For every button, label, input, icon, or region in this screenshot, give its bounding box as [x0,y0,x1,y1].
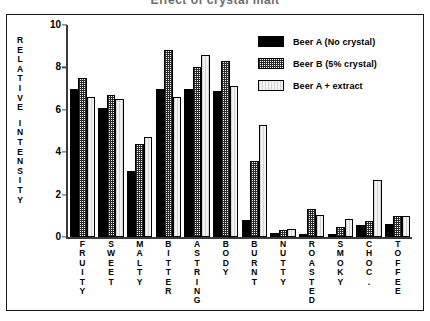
y-tick-label: 10 [50,20,61,30]
bar [336,227,345,237]
legend-item: Beer A + extract [258,80,410,91]
chart-figure: Effect of crystal malt RELATIVEINTENSITY… [0,0,430,321]
bar [78,78,87,237]
x-label-letter: . [368,278,370,287]
bar [356,225,365,237]
x-axis-label: SMOKY [326,240,355,312]
x-axis-label: MALTY [125,240,154,312]
bar [230,86,239,237]
bar [164,50,173,237]
y-tick-label: 8 [55,62,61,72]
bar [402,216,411,237]
y-tick-label: 0 [55,232,61,242]
chart-title: Effect of crystal malt [0,0,430,7]
bar-group [154,25,183,237]
x-label-letter: T [252,278,257,287]
bar [135,144,144,237]
x-axis-label: CHOC. [355,240,384,312]
bar [250,161,259,237]
legend-label: Beer B (5% crystal) [293,59,377,69]
bar-group [68,25,97,237]
bar [98,108,107,237]
bar [373,180,382,237]
x-axis-label: NUTTY [269,240,298,312]
x-axis-label: BITTER [154,240,183,312]
x-axis-label: BURNT [240,240,269,312]
y-tick-label: 2 [55,190,61,200]
y-tick-mark [62,236,67,237]
bar [173,97,182,237]
bar [107,95,116,237]
y-tick-mark [62,67,67,68]
legend-item: Beer B (5% crystal) [258,58,410,69]
chart-legend: Beer A (No crystal)Beer B (5% crystal)Be… [258,36,410,102]
legend-swatch [258,36,284,47]
y-caption-letter: Y [17,196,23,206]
x-label-letter: G [194,296,201,305]
bar [279,230,288,237]
x-label-letter: Y [137,278,143,287]
x-axis-line [66,237,412,239]
y-tick-label: 4 [55,147,61,157]
bar [127,171,136,237]
y-tick-mark [62,109,67,110]
x-label-letter: Y [338,278,344,287]
bar [201,55,210,237]
bar [213,91,222,237]
bar [184,89,193,237]
x-label-letter: D [309,296,315,305]
y-tick-mark [62,24,67,25]
x-axis-labels: FRUITYSWEETMALTYBITTERASTRINGBODYBURNTNU… [68,240,412,312]
bar [193,67,202,237]
y-tick-label: 6 [55,105,61,115]
legend-swatch [258,58,284,69]
bar [259,125,268,237]
bar [87,97,96,237]
x-label-letter: T [108,278,113,287]
bar-group [97,25,126,237]
bar [221,61,230,237]
bar [393,216,402,237]
x-label-letter: Y [80,287,86,296]
bar [70,89,79,237]
x-label-letter: Y [280,278,286,287]
x-axis-label: TOFFEE [383,240,412,312]
x-axis-label: SWEET [97,240,126,312]
bar [299,234,308,237]
bar [287,229,296,237]
y-tick-mark [62,194,67,195]
bar [144,137,153,237]
bar [316,215,325,237]
y-tick-mark [62,152,67,153]
legend-label: Beer A + extract [293,81,363,91]
bar [270,233,279,237]
bar [115,99,124,237]
bar-group [211,25,240,237]
bar [156,89,165,237]
bar [307,209,316,237]
x-label-letter: E [395,287,401,296]
bar [242,220,251,237]
legend-swatch [258,80,284,91]
x-label-letter: Y [223,268,229,277]
x-axis-label: BODY [211,240,240,312]
y-axis-caption: RELATIVEINTENSITY [12,36,28,205]
bar [385,224,394,237]
bar-group [125,25,154,237]
x-axis-label: ASTRING [183,240,212,312]
bar [345,219,354,237]
bar-group [183,25,212,237]
y-caption-letter: E [17,103,23,113]
bar [328,234,337,237]
x-label-letter: R [165,287,171,296]
x-axis-label: ROASTED [297,240,326,312]
bar [365,221,374,237]
legend-label: Beer A (No crystal) [293,37,375,47]
x-axis-label: FRUITY [68,240,97,312]
legend-item: Beer A (No crystal) [258,36,410,47]
